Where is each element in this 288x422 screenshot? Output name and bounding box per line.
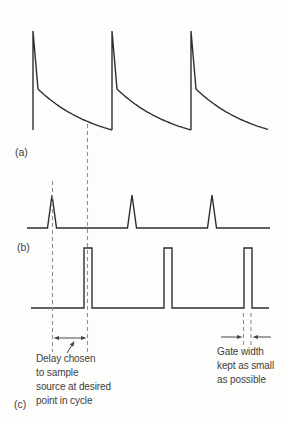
gate-width-left-arrow-head <box>237 335 243 339</box>
gate-width-left-arrow <box>221 335 243 339</box>
waveform-traces <box>27 31 270 308</box>
gate-width-right-arrow-head <box>253 335 259 339</box>
waveform-a-trace <box>33 31 268 130</box>
dashed-timing-guides <box>53 124 252 352</box>
panel-label-b: (b) <box>17 242 30 253</box>
delay-double-arrow-head <box>54 336 60 340</box>
delay-annotation-leader-head <box>70 341 75 347</box>
gate-width-annotation: Gate width kept as small as possible <box>217 345 274 387</box>
panel-label-a: (a) <box>15 147 28 158</box>
delay-double-arrow-head <box>81 336 87 340</box>
delay-double-arrow <box>54 336 87 340</box>
panel-label-c: (c) <box>14 399 26 410</box>
delay-annotation: Delay chosen to sample source at desired… <box>36 352 111 408</box>
waveform-b-trace <box>27 195 270 228</box>
timing-diagram-figure: (a) (b) (c) Delay chosen to sample sourc… <box>0 0 288 422</box>
gate-width-right-arrow <box>253 335 272 339</box>
waveform-c-trace <box>31 248 269 308</box>
